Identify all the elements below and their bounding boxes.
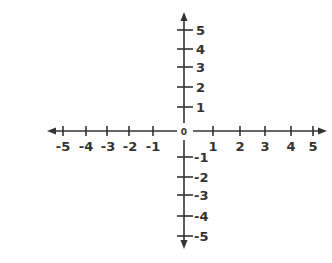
y-tick-label: 5	[196, 23, 205, 38]
coordinate-plane: 0 -5 -4 -3 -2 -1 1 2 3 4 5 5 4 3 2 1 -1 …	[0, 0, 332, 263]
y-tick-label: 4	[196, 42, 205, 57]
x-tick-label: 4	[286, 139, 295, 154]
coordinate-plane-svg: 0 -5 -4 -3 -2 -1 1 2 3 4 5 5 4 3 2 1 -1 …	[0, 0, 332, 263]
x-tick-label: 5	[308, 139, 317, 154]
y-tick-label: -5	[194, 229, 208, 244]
left-arrow-icon	[47, 128, 56, 135]
x-tick-label: 2	[235, 139, 244, 154]
x-tick-label: -1	[146, 139, 160, 154]
x-tick-labels: -5 -4 -3 -2 -1 1 2 3 4 5	[56, 139, 318, 154]
y-tick-label: -4	[194, 209, 208, 224]
y-tick-labels: 5 4 3 2 1 -1 -2 -3 -4 -5	[194, 23, 208, 244]
x-tick-label: 3	[260, 139, 269, 154]
y-tick-label: 1	[196, 100, 205, 115]
down-arrow-icon	[181, 240, 188, 249]
x-tick-label: -3	[101, 139, 115, 154]
right-arrow-icon	[318, 128, 327, 135]
x-tick-label: -5	[56, 139, 70, 154]
origin-label: 0	[181, 127, 187, 137]
y-tick-label: -2	[194, 170, 208, 185]
x-tick-label: 1	[208, 139, 217, 154]
y-tick-label: -3	[194, 188, 208, 203]
y-tick-label: 3	[196, 60, 205, 75]
y-tick-label: -1	[194, 150, 208, 165]
y-tick-label: 2	[196, 80, 205, 95]
x-tick-label: -2	[123, 139, 137, 154]
x-tick-label: -4	[79, 139, 93, 154]
up-arrow-icon	[181, 12, 188, 21]
